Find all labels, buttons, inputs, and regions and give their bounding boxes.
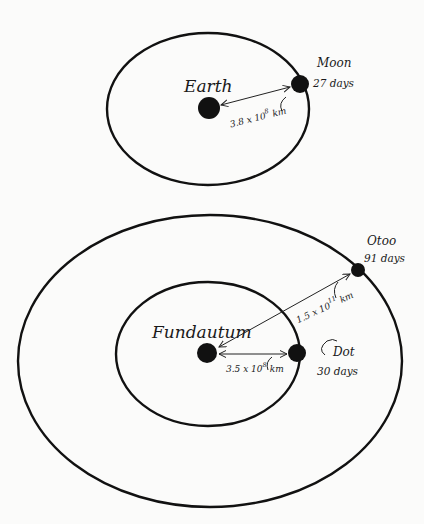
- dot-label: Dot: [332, 345, 355, 359]
- svg-text:3.8 x 108km: 3.8 x 108km: [228, 103, 287, 130]
- otoo-distance-label: 1.5 x 1011km: [293, 287, 355, 325]
- orbit-diagrams: Earth Moon 27 days 3.8 x 108km Fundautum…: [0, 0, 424, 524]
- earth-label: Earth: [183, 76, 232, 96]
- otoo-satellite: [351, 263, 365, 277]
- moon-label: Moon: [316, 56, 351, 70]
- earth-planet: [198, 97, 220, 119]
- dot-period: 30 days: [317, 365, 359, 377]
- otoo-period: 91 days: [364, 252, 406, 264]
- dot-distance-label: 3.5 x 108km: [226, 361, 284, 374]
- moon-period: 27 days: [312, 77, 355, 89]
- otoo-label: Otoo: [367, 234, 396, 248]
- fundautum-system-diagram: Fundautum Dot 30 days Otoo 91 days 3.5 x…: [18, 215, 406, 507]
- moon-satellite: [291, 75, 309, 93]
- svg-text:1.5 x 1011km: 1.5 x 1011km: [293, 287, 355, 325]
- moon-distance-label: 3.8 x 108km: [228, 103, 287, 130]
- dot-satellite: [288, 344, 306, 362]
- fundautum-label: Fundautum: [151, 322, 252, 342]
- earth-system-diagram: Earth Moon 27 days 3.8 x 108km: [107, 33, 355, 185]
- fundautum-planet: [197, 343, 217, 363]
